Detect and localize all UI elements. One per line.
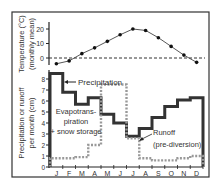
temp-tick-label: 0: [40, 55, 44, 62]
annotation-evapo-2: piration: [64, 117, 89, 126]
month-label: S: [156, 170, 161, 177]
temp-tick-label: 20: [36, 26, 44, 33]
month-label: J: [131, 170, 135, 177]
month-label: A: [92, 170, 97, 177]
month-label: A: [143, 170, 148, 177]
temp-point: [93, 46, 97, 50]
temp-ylabel-line1: Temperature (°C): [17, 15, 26, 73]
month-label: O: [168, 170, 174, 177]
temp-point: [131, 27, 135, 31]
annotation-precipitation: Precipitation: [78, 78, 122, 87]
precip-ylabel: Precipitation or runoff: [17, 87, 26, 159]
temperature-ylabel: Temperature (°C): [17, 15, 26, 73]
temp-point: [182, 53, 186, 57]
temp-point: [157, 36, 161, 40]
precip-tick-label: 6: [41, 98, 45, 105]
temperature-ylabel-2: (monthly mean): [27, 17, 36, 70]
temp-point: [80, 52, 84, 56]
month-label: F: [67, 170, 71, 177]
temp-point: [55, 62, 59, 66]
month-label: J: [55, 170, 59, 177]
annotation-evapo-1: Evapotrans-: [56, 107, 97, 116]
temp-ylabel-line2: (monthly mean): [27, 17, 36, 70]
precip-tick-label: 7: [41, 87, 45, 94]
precip-ylabel-line1: Precipitation or runoff: [17, 87, 26, 159]
precip-tick-label: 0: [41, 164, 45, 171]
temp-tick-label: 10: [36, 40, 44, 47]
month-label: M: [104, 170, 110, 177]
precip-ylabel-2: per month (cm): [27, 97, 36, 148]
temp-point: [144, 29, 148, 33]
precip-ylabel-line2: per month (cm): [27, 97, 36, 148]
month-label: J: [118, 170, 122, 177]
month-label: D: [194, 170, 199, 177]
annotation-runoff-1: Runoff: [153, 128, 176, 137]
precip-tick-label: 2: [41, 142, 45, 149]
temp-point: [169, 45, 173, 49]
annotation-runoff-2: (pre-diversion): [153, 140, 202, 149]
precip-tick-label: 3: [41, 131, 45, 138]
precip-tick-label: 5: [41, 109, 45, 116]
temp-point: [118, 33, 122, 37]
precip-tick-label: 4: [41, 120, 45, 127]
temp-point: [195, 61, 199, 65]
precip-tick-label: 1: [41, 153, 45, 160]
month-label: M: [79, 170, 85, 177]
temp-point: [67, 59, 71, 63]
month-label: N: [181, 170, 186, 177]
chart-figure: 01020 012345678 JFMAMJJASOND Temperature…: [0, 0, 220, 187]
temp-point: [106, 40, 110, 44]
annotation-evapo-3: + snow storage: [50, 127, 101, 136]
precip-tick-label: 8: [41, 76, 45, 83]
